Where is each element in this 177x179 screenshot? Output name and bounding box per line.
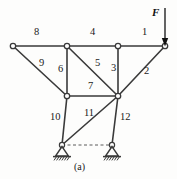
- joint-node-mid-left: [64, 93, 69, 98]
- member-label-11: 11: [84, 108, 94, 119]
- figure-caption: (a): [74, 162, 85, 172]
- joint-node-top-mid-right: [115, 43, 120, 48]
- member-label-12: 12: [120, 112, 131, 123]
- member-label-4: 4: [90, 27, 95, 38]
- member-label-1: 1: [142, 27, 147, 38]
- member-label-6: 6: [58, 64, 63, 75]
- joint-node-top-left: [10, 43, 15, 48]
- member-label-3: 3: [111, 63, 116, 74]
- member-10-line: [62, 96, 67, 145]
- member-label-10: 10: [50, 112, 61, 123]
- support-right: [103, 142, 121, 160]
- member-label-7: 7: [88, 81, 93, 92]
- joint-node-top-upper-left: [64, 43, 69, 48]
- applied-force-arrow: [162, 8, 168, 47]
- member-label-2: 2: [144, 66, 149, 77]
- member-2-line: [118, 46, 165, 96]
- force-label-F: F: [152, 7, 159, 18]
- member-11-line: [62, 96, 118, 145]
- member-12-line: [112, 96, 118, 145]
- member-label-5: 5: [95, 58, 100, 69]
- truss-members: [13, 46, 165, 145]
- joint-node-mid-junction: [115, 93, 120, 98]
- member-label-8: 8: [34, 27, 39, 38]
- truss-figure: F 1 2 3 4 5 6 7 8 9 10 11 12 (a): [0, 0, 177, 179]
- member-label-9: 9: [39, 58, 44, 69]
